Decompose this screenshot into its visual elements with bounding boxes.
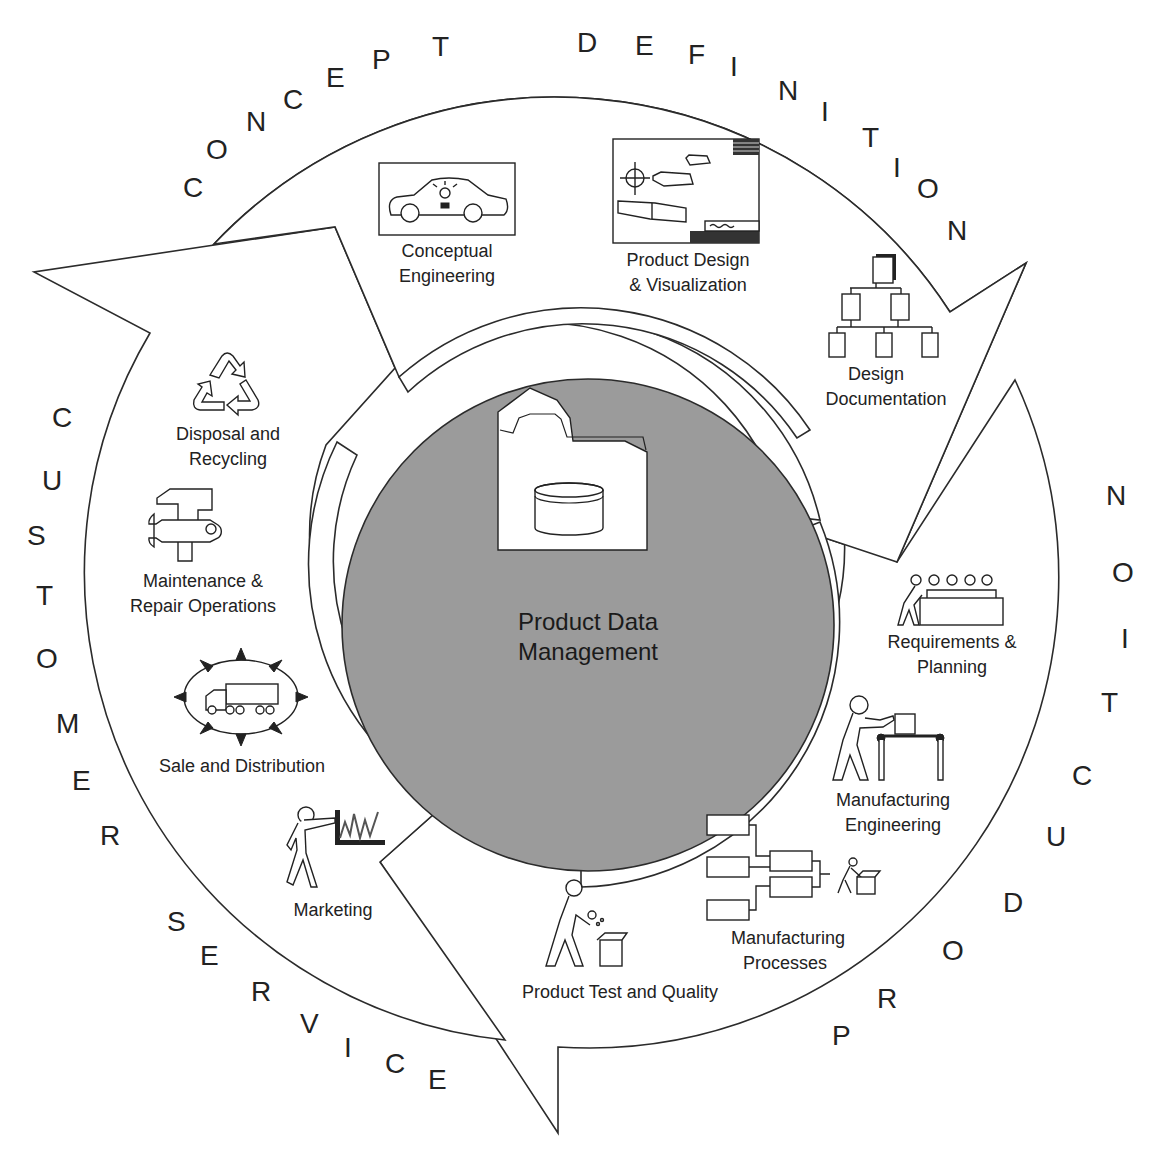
- activity-label-line2: Planning: [917, 657, 987, 677]
- meeting-table-icon: [898, 575, 1003, 625]
- ring-letter: C: [52, 402, 72, 433]
- activity-label-line1: Conceptual: [401, 241, 492, 261]
- ring-letter: O: [36, 643, 58, 674]
- ring-letter: P: [372, 44, 391, 75]
- activity-label-line2: & Visualization: [629, 275, 747, 295]
- activity-label-line2: Recycling: [189, 449, 267, 469]
- ring-letter: C: [1072, 760, 1092, 791]
- ring-letter: E: [326, 62, 345, 93]
- ring-letter: T: [432, 31, 449, 62]
- ring-letter: D: [1003, 887, 1023, 918]
- center-title-line2: Management: [518, 638, 658, 665]
- activity-label-line2: Processes: [743, 953, 827, 973]
- ring-letter: E: [200, 940, 219, 971]
- ring-letter: I: [730, 51, 738, 82]
- ring-letter: M: [56, 708, 79, 739]
- ring-letter: U: [1046, 821, 1066, 852]
- ring-letter: T: [1101, 687, 1118, 718]
- ring-letter: N: [246, 106, 266, 137]
- cad-drawing-icon: [613, 139, 759, 243]
- ring-letter: U: [42, 465, 62, 496]
- activity-label-line1: Manufacturing: [731, 928, 845, 948]
- ring-letter: I: [821, 96, 829, 127]
- ring-letter: R: [877, 983, 897, 1014]
- ring-letter: C: [385, 1048, 405, 1079]
- ring-letter: C: [283, 84, 303, 115]
- ring-letter: E: [635, 30, 654, 61]
- ring-letter: T: [862, 122, 879, 153]
- ring-letter: R: [100, 820, 120, 851]
- activity-label-line1: Disposal and: [176, 424, 280, 444]
- ring-letter: N: [778, 75, 798, 106]
- ring-letter: I: [1121, 623, 1129, 654]
- ring-letter: I: [893, 152, 901, 183]
- ring-letter: P: [832, 1020, 851, 1051]
- activity-conceptual-engineering: Conceptual Engineering: [379, 163, 515, 286]
- activity-label-line1: Marketing: [293, 900, 372, 920]
- ring-letter: V: [300, 1008, 319, 1039]
- activity-label-line1: Manufacturing: [836, 790, 950, 810]
- ring-letter: O: [1112, 557, 1134, 588]
- center-title-line1: Product Data: [518, 608, 659, 635]
- ring-letter: I: [344, 1032, 352, 1063]
- activity-label-line1: Sale and Distribution: [159, 756, 325, 776]
- activity-label-line1: Product Design: [626, 250, 749, 270]
- ring-letter: O: [942, 935, 964, 966]
- activity-label-line1: Maintenance &: [143, 571, 263, 591]
- activity-label-line2: Documentation: [825, 389, 946, 409]
- ring-letter: F: [688, 39, 705, 70]
- center-hub: Product Data Management: [342, 379, 834, 871]
- activity-label-line1: Product Test and Quality: [522, 982, 718, 1002]
- ring-letter: T: [36, 580, 53, 611]
- ring-letter: O: [917, 173, 939, 204]
- ring-letter: E: [428, 1064, 447, 1095]
- ring-letter: C: [183, 172, 203, 203]
- ring-letter: E: [72, 765, 91, 796]
- ring-letter: N: [1106, 480, 1126, 511]
- activity-label-line2: Engineering: [845, 815, 941, 835]
- activity-label-line1: Design: [848, 364, 904, 384]
- activity-label-line1: Requirements &: [887, 632, 1016, 652]
- activity-label-line2: Engineering: [399, 266, 495, 286]
- ring-letter: R: [251, 976, 271, 1007]
- ring-letter: S: [27, 520, 46, 551]
- activity-label-line2: Repair Operations: [130, 596, 276, 616]
- ring-letter: O: [206, 134, 228, 165]
- ring-letter: S: [167, 906, 186, 937]
- pdm-lifecycle-diagram: Product Data Management C O N C E P T D …: [0, 0, 1159, 1163]
- ring-letter: N: [947, 215, 967, 246]
- ring-letter: D: [577, 27, 597, 58]
- car-lightbulb-icon: [379, 163, 515, 235]
